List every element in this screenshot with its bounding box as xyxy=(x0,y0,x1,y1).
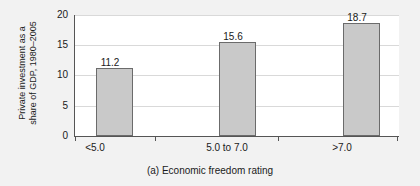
bar-category-2[interactable] xyxy=(219,42,256,136)
x-tick-label-1: <5.0 xyxy=(60,142,130,153)
y-tick-label-15: 15 xyxy=(44,40,68,50)
y-tick-label-20: 20 xyxy=(44,10,68,20)
x-tick-mark-4 xyxy=(397,136,398,141)
x-tick-label-3: >7.0 xyxy=(307,142,377,153)
bar-category-1[interactable] xyxy=(96,68,133,136)
x-tick-mark-2 xyxy=(155,136,156,141)
y-axis-title-line-2: share of GDP, 1980–2005 xyxy=(28,21,39,124)
x-tick-mark-3 xyxy=(278,136,279,141)
x-tick-mark-1 xyxy=(75,136,76,141)
bar-value-label-1: 11.2 xyxy=(75,57,145,68)
bar-value-label-2: 15.6 xyxy=(198,31,268,42)
x-tick-label-2: 5.0 to 7.0 xyxy=(177,142,277,153)
chart-caption: (a) Economic freedom rating xyxy=(0,165,420,177)
y-axis-title-line-1: Private investment as a xyxy=(17,21,28,124)
y-tick-label-0: 0 xyxy=(44,131,68,141)
bar-chart-figure: Private investment as a share of GDP, 19… xyxy=(0,0,420,186)
y-tick-label-5: 5 xyxy=(44,101,68,111)
bar-value-label-3: 18.7 xyxy=(322,12,392,23)
y-tick-label-10: 10 xyxy=(44,70,68,80)
bar-category-3[interactable] xyxy=(343,23,380,136)
